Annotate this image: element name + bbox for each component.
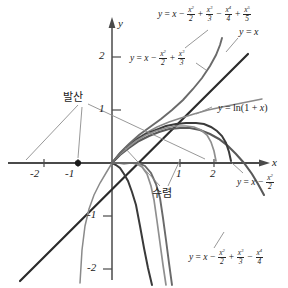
curve-label-taylor-degree-3: y = x − x22 + x33 bbox=[130, 50, 186, 66]
curve-label-taylor-degree-5: y = x − x22 + x33 − x44 + x55 bbox=[158, 6, 251, 22]
leader-divergence-right bbox=[88, 104, 205, 159]
curve-taylor-degree-5 bbox=[112, 38, 222, 285]
x-tick-label-2: 2 bbox=[210, 168, 216, 179]
curve-label-taylor-degree-2: y = x − x22 bbox=[237, 174, 274, 190]
divergence-point-marker bbox=[75, 160, 81, 166]
y-tick-label-2: 2 bbox=[99, 50, 105, 61]
y-tick-label-1: 1 bbox=[99, 103, 105, 114]
taylor-series-figure: -2 -1 1 2 2 1 -1 -2 x y 발산 수렴 y = x − x2… bbox=[0, 0, 288, 288]
leader-p3-label bbox=[196, 63, 206, 70]
leader-divergence-left bbox=[26, 105, 78, 160]
leader-line-label bbox=[226, 38, 238, 52]
leader-convergence-left bbox=[125, 148, 160, 186]
y-tick-label--1: -1 bbox=[87, 209, 96, 220]
y-tick-label--2: -2 bbox=[87, 262, 96, 273]
x-tick-label--2: -2 bbox=[30, 168, 39, 179]
x-tick-label--1: -1 bbox=[65, 168, 74, 179]
y-axis-label: y bbox=[118, 18, 123, 29]
leader-p4-label bbox=[214, 232, 224, 248]
leader-divergence-down bbox=[78, 107, 82, 158]
y-axis-arrowhead bbox=[109, 17, 116, 28]
leader-p5-label bbox=[185, 30, 208, 48]
x-axis-label: x bbox=[272, 157, 277, 168]
leader-ln-label bbox=[196, 107, 212, 114]
x-tick-label-1: 1 bbox=[176, 168, 182, 179]
annotation-divergence: 발산 bbox=[63, 92, 83, 103]
curves bbox=[20, 38, 264, 285]
curve-label-identity-line: y = x bbox=[239, 27, 259, 37]
x-axis-arrowhead bbox=[259, 160, 270, 167]
plot-canvas bbox=[0, 0, 288, 288]
annotation-convergence: 수렴 bbox=[152, 188, 172, 199]
curve-label-taylor-degree-4: y = x − x22 + x33 − x44 bbox=[189, 249, 264, 265]
leader-p2-label bbox=[232, 163, 243, 173]
curve-label-natural-log: y = ln(1 + x) bbox=[218, 103, 268, 113]
